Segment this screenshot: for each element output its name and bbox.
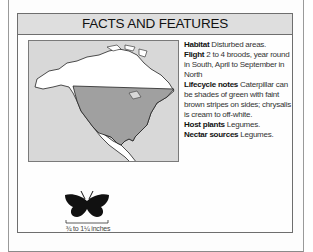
fact-nectar-sources: Nectar sources Legumes. (184, 130, 292, 140)
facts-text: Habitat Disturbed areas. Flight 2 to 4 b… (184, 40, 292, 140)
fact-flight: Flight 2 to 4 broods, year round in Sout… (184, 50, 292, 80)
butterfly-silhouette-icon (63, 189, 111, 225)
fact-host-plants: Host plants Legumes. (184, 120, 292, 130)
fact-habitat: Habitat Disturbed areas. (184, 40, 292, 50)
wingspan-label: ¾ to 1¼ inches (48, 225, 128, 232)
panel-title: FACTS AND FEATURES (18, 14, 292, 35)
fact-lifecycle: Lifecycle notes Caterpillar can be shade… (184, 80, 292, 120)
north-america-map-icon (29, 41, 179, 162)
facts-and-features-panel: FACTS AND FEATURES Habitat Disturbed are… (17, 13, 293, 233)
range-map (28, 40, 179, 162)
